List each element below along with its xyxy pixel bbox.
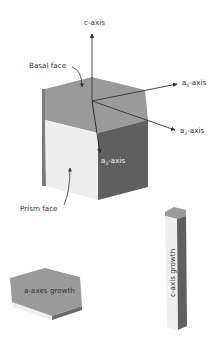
a3-axis-label: a3-axis	[101, 156, 126, 166]
prism-face-label: Prism face	[20, 204, 58, 213]
c-axis-growth-column: c-axis growth	[165, 207, 187, 330]
a-axes-growth-label: a-axes growth	[24, 286, 75, 295]
basal-face-label: Basal face	[29, 61, 67, 70]
a2-axis-label: a2-axis	[180, 126, 205, 136]
a-axes-growth-plate: a-axes growth	[10, 268, 82, 320]
c-axis-label: c-axis	[84, 18, 105, 27]
c-axis-growth-label: c-axis growth	[168, 249, 177, 297]
ice-crystal-diagram: c-axis Basal face a1-axis a2-axis a3-axi…	[0, 0, 218, 345]
column-side-face	[177, 216, 187, 330]
prism-face-shape	[45, 120, 98, 200]
a1-axis-label: a1-axis	[182, 78, 207, 88]
hexagonal-prism	[42, 77, 148, 200]
